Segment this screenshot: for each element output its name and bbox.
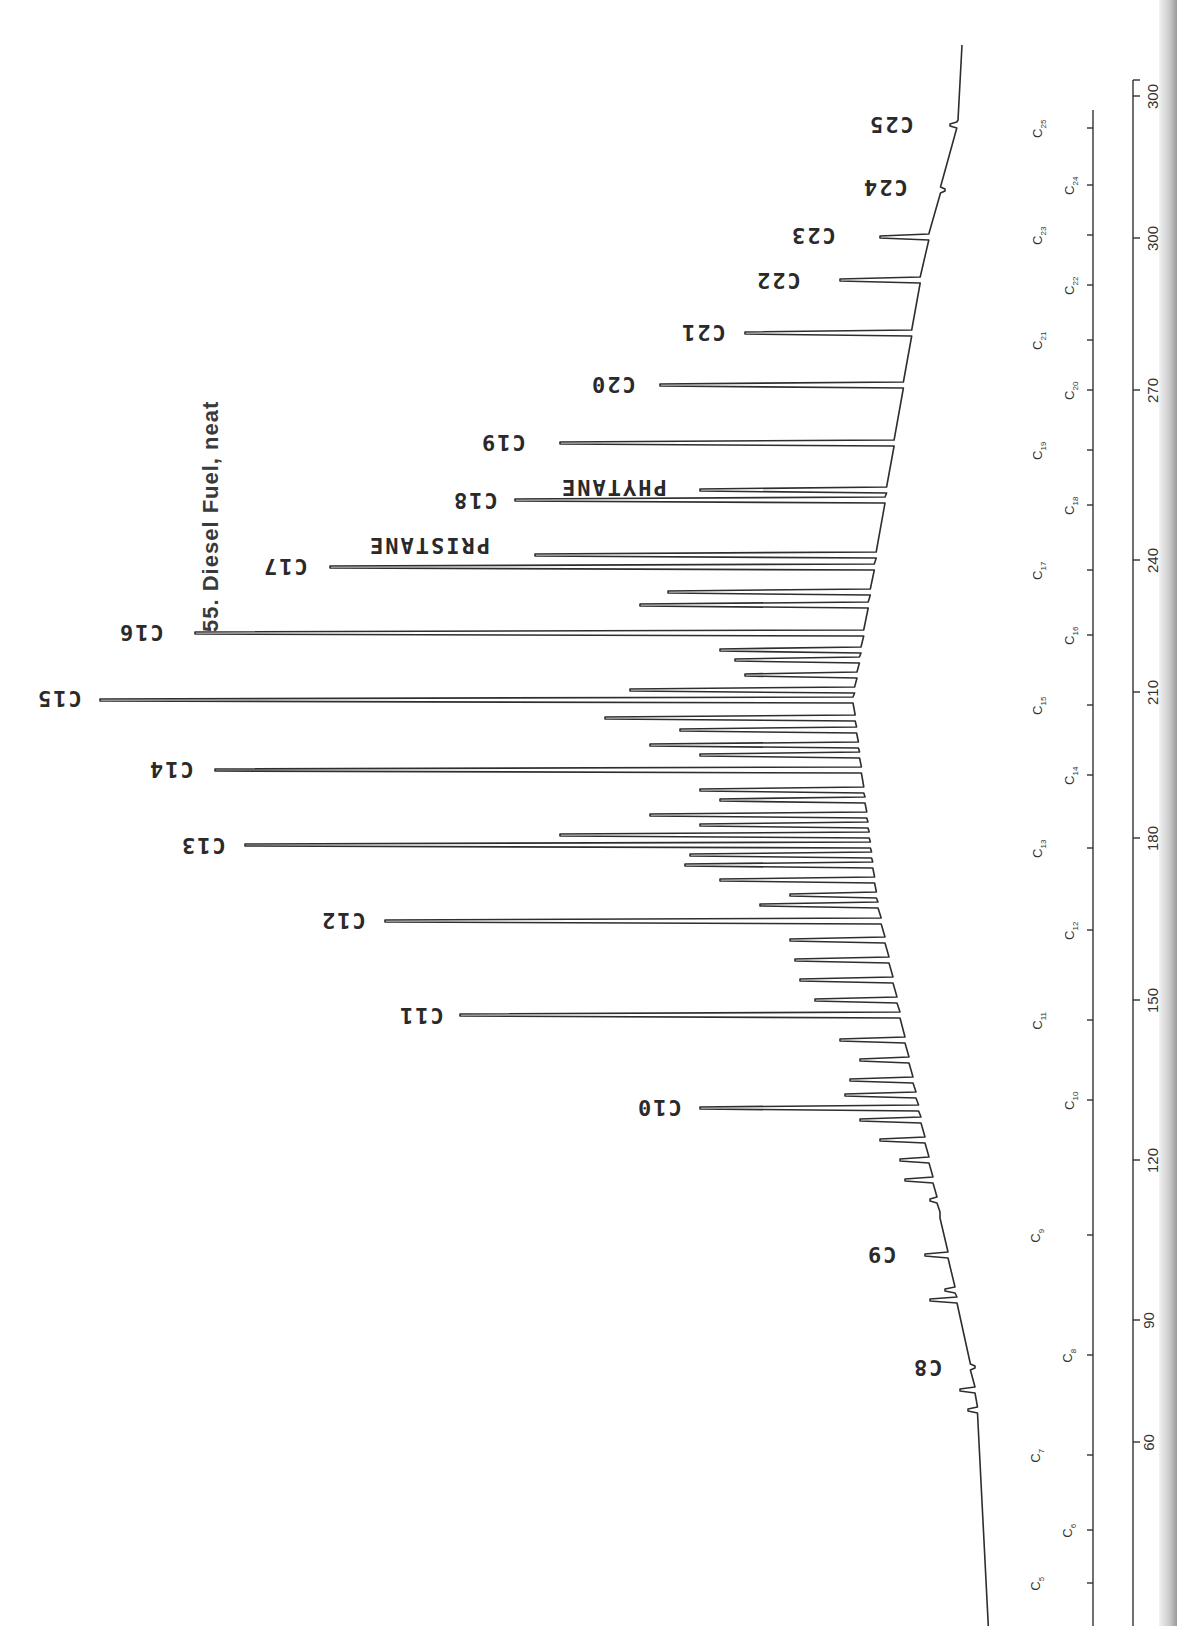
- carbon-axis-label: C7: [1028, 1449, 1046, 1463]
- carbon-axis-label: C21: [1030, 332, 1048, 350]
- temperature-axis-label: 300: [1144, 84, 1161, 109]
- temperature-axis-label: 120: [1144, 1148, 1161, 1173]
- temperature-axis-label: 240: [1144, 548, 1161, 573]
- carbon-axis-label: C9: [1028, 1229, 1046, 1243]
- peak-label-phytane: PHYTANE: [560, 475, 667, 500]
- peak-label-c11: C11: [398, 1003, 444, 1028]
- carbon-axis-label: C20: [1062, 382, 1080, 400]
- peak-label-c20: C20: [590, 372, 636, 397]
- carbon-axis-label: C14: [1062, 767, 1080, 785]
- peak-label-c8: C8: [912, 1355, 943, 1380]
- peak-label-c24: C24: [862, 175, 908, 200]
- carbon-axis-label: C22: [1062, 277, 1080, 295]
- peak-label-pristane: PRISTANE: [368, 533, 490, 558]
- carbon-axis-label: C5: [1028, 1577, 1046, 1591]
- peak-label-c25: C25: [868, 112, 914, 137]
- temperature-axis-label: 210: [1144, 680, 1161, 705]
- peak-label-c18: C18: [452, 488, 498, 513]
- peak-label-c16: C16: [118, 620, 164, 645]
- peak-label-c19: C19: [480, 430, 526, 455]
- chromatogram-plot: [0, 0, 1177, 1626]
- chart-title: 55. Diesel Fuel, neat: [198, 401, 224, 632]
- carbon-axis-label: C13: [1030, 840, 1048, 858]
- carbon-axis-label: C19: [1030, 442, 1048, 460]
- carbon-axis-label: C6: [1060, 1524, 1078, 1538]
- temperature-axis-label: 180: [1144, 826, 1161, 851]
- carbon-axis-label: C25: [1030, 120, 1048, 138]
- temperature-axis-label: 270: [1144, 378, 1161, 403]
- carbon-axis-label: C10: [1062, 1092, 1080, 1110]
- carbon-axis-label: C8: [1060, 1349, 1078, 1363]
- peak-label-c10: C10: [636, 1095, 682, 1120]
- carbon-axis-label: C12: [1062, 922, 1080, 940]
- carbon-axis-label: C17: [1030, 562, 1048, 580]
- carbon-axis-label: C23: [1030, 227, 1048, 245]
- carbon-axis-label: C16: [1062, 627, 1080, 645]
- carbon-axis-label: C18: [1062, 497, 1080, 515]
- peak-label-c15: C15: [36, 686, 82, 711]
- carbon-axis-label: C11: [1030, 1012, 1048, 1030]
- chromatogram-trace: [100, 45, 988, 1626]
- carbon-axis-label: C15: [1030, 697, 1048, 715]
- carbon-axis-label: C24: [1062, 177, 1080, 195]
- peak-label-c21: C21: [680, 320, 726, 345]
- temperature-axis-label: 150: [1144, 988, 1161, 1013]
- peak-label-c9: C9: [866, 1242, 897, 1267]
- peak-label-c23: C23: [790, 223, 836, 248]
- peak-label-c14: C14: [148, 757, 194, 782]
- peak-label-c13: C13: [180, 833, 226, 858]
- peak-label-c22: C22: [755, 268, 801, 293]
- temperature-axis-label: 60: [1140, 1434, 1157, 1451]
- temperature-axis-label: 300: [1144, 226, 1161, 251]
- temperature-axis: [1133, 80, 1140, 1626]
- peak-label-c12: C12: [320, 908, 366, 933]
- peak-label-c17: C17: [262, 554, 308, 579]
- temperature-axis-label: 90: [1140, 1312, 1157, 1329]
